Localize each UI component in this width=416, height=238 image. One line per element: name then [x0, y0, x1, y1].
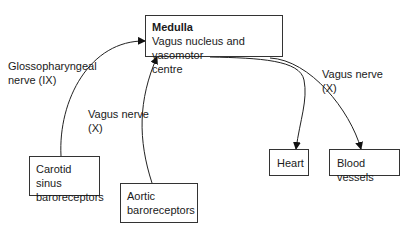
carotid-sinus-node: Carotid sinus baroreceptors	[29, 156, 100, 196]
blood-vessels-label: Blood vessels	[337, 157, 374, 183]
aortic-line1: Aortic	[127, 189, 191, 203]
medulla-line2: centre	[152, 62, 276, 76]
vagus-out-line2: (X)	[322, 81, 383, 95]
vagus-afferent-label: Vagus nerve (X)	[88, 107, 149, 135]
medulla-node: Medulla Vagus nucleus and vasomotor cent…	[145, 15, 283, 57]
vagus-efferent-label: Vagus nerve (X)	[322, 67, 383, 95]
vagus-out-line1: Vagus nerve	[322, 67, 383, 81]
carotid-line1: Carotid sinus	[36, 162, 93, 190]
glossopharyngeal-label: Glossopharyngeal nerve (IX)	[8, 59, 97, 87]
glosso-line2: nerve (IX)	[8, 73, 97, 87]
heart-label: Heart	[277, 157, 304, 169]
blood-vessels-node: Blood vessels	[329, 149, 400, 176]
glosso-line1: Glossopharyngeal	[8, 59, 97, 73]
heart-node: Heart	[269, 149, 309, 176]
vagus-in-line1: Vagus nerve	[88, 107, 149, 121]
vagus-in-line2: (X)	[88, 121, 149, 135]
medulla-title: Medulla	[152, 20, 276, 34]
aortic-node: Aortic baroreceptors	[120, 183, 198, 223]
medulla-line1: Vagus nucleus and vasomotor	[152, 34, 276, 62]
aortic-line2: baroreceptors	[127, 203, 191, 217]
carotid-line2: baroreceptors	[36, 190, 93, 204]
